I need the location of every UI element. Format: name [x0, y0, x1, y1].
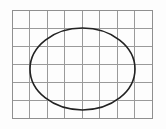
figure-container — [0, 0, 166, 129]
ellipse-grid-figure — [0, 0, 166, 129]
